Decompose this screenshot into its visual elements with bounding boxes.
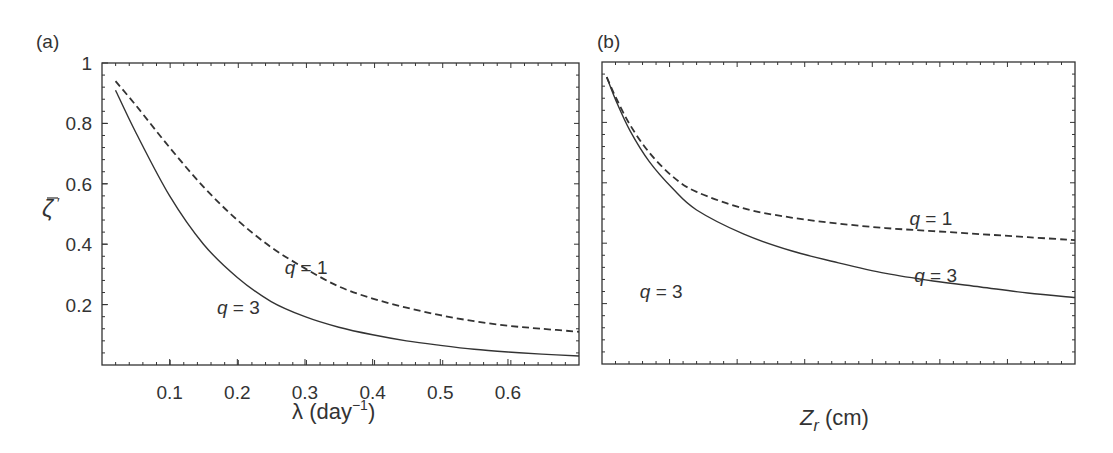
x-tick-label: 0.2 <box>224 382 250 403</box>
panel-a-annotations: q = 1q = 3 <box>217 257 327 317</box>
panel-b-annotations: q = 1q = 3q = 3 <box>640 208 957 301</box>
x-tick-label: 0.5 <box>427 382 453 403</box>
svg-text:′: ′ <box>57 195 60 211</box>
y-tick-label: 0.2 <box>66 295 92 316</box>
svg-text:ζ: ζ <box>42 195 55 222</box>
y-tick-label: 1 <box>81 53 92 74</box>
curve-q3 <box>607 77 1075 297</box>
panel-b-label: (b) <box>597 31 620 52</box>
panel-b-plot-frame <box>602 62 1075 364</box>
panel-a-plot-frame <box>102 63 579 365</box>
x-tick-label: 0.1 <box>156 382 182 403</box>
panel-a-label: (a) <box>36 31 59 52</box>
panel-b-x-axis-label: Zr (cm) <box>799 405 869 434</box>
panel-a-tick-labels: 0.10.20.30.40.50.60.20.40.60.81 <box>66 53 522 403</box>
curve-q3 <box>116 90 579 356</box>
panel-b: (b) q = 1q = 3q = 3 Zr (cm) <box>597 31 1075 434</box>
y-tick-label: 0.8 <box>66 113 92 134</box>
panel-a-x-axis-label: λ (day−1) <box>292 397 375 424</box>
panel-a-curves <box>116 81 579 356</box>
y-tick-label: 0.6 <box>66 174 92 195</box>
curve-annotation: q = 1 <box>285 257 328 278</box>
panel-a-y-axis-label: ζ ′ <box>42 195 60 222</box>
curve-annotation: q = 3 <box>914 265 957 286</box>
x-tick-label: 0.6 <box>495 382 521 403</box>
panel-a: (a) 0.10.20.30.40.50.60.20.40.60.81 q = … <box>36 31 579 424</box>
curve-q1 <box>607 77 1075 240</box>
y-tick-label: 0.4 <box>66 234 93 255</box>
figure: (a) 0.10.20.30.40.50.60.20.40.60.81 q = … <box>0 0 1113 453</box>
curve-annotation: q = 3 <box>217 297 260 318</box>
panel-b-ticks <box>602 62 1075 364</box>
panel-b-curves <box>607 77 1075 297</box>
curve-q1 <box>116 81 579 332</box>
panel-a-ticks <box>102 63 579 365</box>
curve-annotation: q = 3 <box>640 281 683 302</box>
curve-annotation: q = 1 <box>909 208 952 229</box>
